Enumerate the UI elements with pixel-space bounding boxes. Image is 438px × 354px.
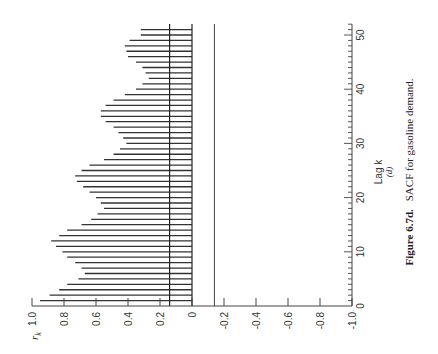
rk-tick-label: -1.0 (347, 312, 358, 330)
rk-tick-label: -0.4 (251, 312, 262, 330)
lag-tick-label: 30 (355, 137, 366, 149)
rk-tick-label: 0 (187, 312, 198, 318)
rk-tick-label: 0.2 (155, 312, 166, 326)
lag-tick-label: 0 (355, 303, 366, 309)
lag-axis: 01020304050 (344, 24, 366, 309)
rk-tick-label: 0.4 (123, 312, 134, 326)
figure-caption: Figure 6.7d.SACF for gasoline demand. (403, 78, 415, 265)
rk-tick-label: -0.2 (219, 312, 230, 330)
rk-tick-label: 0.6 (91, 312, 102, 326)
lag-tick-label: 20 (355, 192, 366, 204)
x-axis-label: Lag k (373, 159, 384, 184)
y-axis-label: rk (28, 332, 43, 340)
lag-tick-label: 40 (355, 83, 366, 95)
rk-tick-label: -0.6 (283, 312, 294, 330)
rk-tick-label: 1.0 (27, 312, 38, 326)
panel-label: (d) (384, 167, 394, 178)
rk-tick-label: -0.8 (315, 312, 326, 330)
lag-tick-label: 50 (355, 29, 366, 41)
rk-axis: 1.00.80.60.40.20-0.2-0.4-0.6-0.8-1.0 (27, 298, 358, 329)
rk-tick-label: 0.8 (59, 312, 70, 326)
sacf-chart: 1.00.80.60.40.20-0.2-0.4-0.6-0.8-1.0 010… (0, 0, 438, 354)
lag-tick-label: 10 (355, 246, 366, 258)
